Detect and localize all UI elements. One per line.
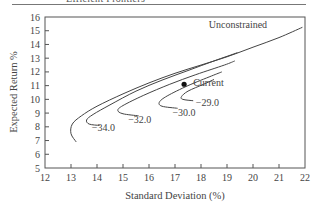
y-tick-label: 12	[30, 66, 40, 77]
curve-label: −30.0	[172, 107, 195, 118]
x-tick-label: 17	[170, 172, 180, 183]
x-tick-label: 13	[66, 172, 76, 183]
y-tick-label: 8	[35, 121, 40, 132]
plot-frame	[45, 17, 305, 168]
current-portfolio-label: Current	[193, 77, 224, 88]
x-tick-label: 14	[92, 172, 102, 183]
x-axis-ticks: 1213141516171819202122	[40, 164, 310, 183]
y-tick-label: 16	[30, 12, 40, 23]
x-tick-label: 21	[274, 172, 284, 183]
x-tick-label: 20	[248, 172, 258, 183]
efficient-frontier-chart: 1213141516171819202122 56789101112131415…	[0, 0, 316, 204]
series-group: Unconstrained−34.0−32.0−30.0−29.0	[71, 19, 303, 142]
y-axis-title: Expected Return %	[8, 51, 19, 133]
y-tick-label: 13	[30, 53, 40, 64]
y-tick-label: 15	[30, 25, 40, 36]
y-tick-label: 9	[35, 108, 40, 119]
y-tick-label: 10	[30, 94, 40, 105]
frontier-curve	[86, 53, 237, 126]
x-axis-title: Standard Deviation (%)	[125, 190, 225, 202]
x-tick-label: 12	[40, 172, 50, 183]
curve-label: −34.0	[92, 122, 115, 133]
y-tick-label: 7	[35, 135, 40, 146]
curve-label: −29.0	[196, 97, 219, 108]
x-tick-label: 16	[144, 172, 154, 183]
curve-label: −32.0	[128, 114, 151, 125]
x-tick-label: 19	[222, 172, 232, 183]
y-tick-label: 11	[30, 80, 40, 91]
y-tick-label: 5	[35, 163, 40, 174]
x-tick-label: 18	[196, 172, 206, 183]
x-tick-label: 22	[300, 172, 310, 183]
x-tick-label: 15	[118, 172, 128, 183]
y-tick-label: 14	[30, 39, 40, 50]
y-tick-label: 6	[35, 149, 40, 160]
current-portfolio-marker	[182, 82, 187, 87]
y-axis-ticks: 5678910111213141516	[30, 12, 49, 174]
curve-label: Unconstrained	[209, 19, 267, 30]
